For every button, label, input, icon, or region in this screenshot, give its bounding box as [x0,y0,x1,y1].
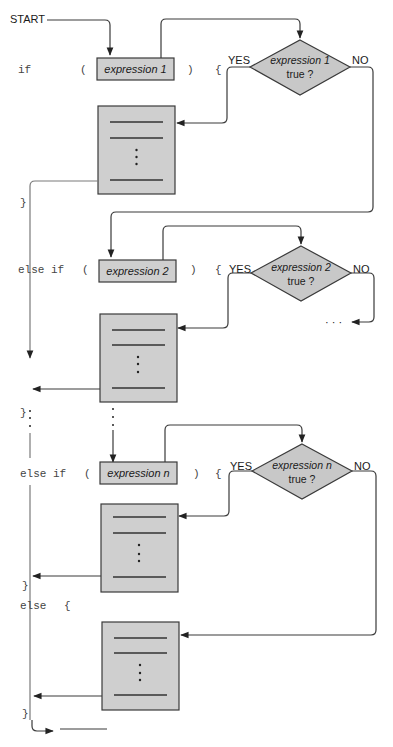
keyword-if: if [18,64,31,76]
branch-else: else { } [20,600,179,731]
keyword-else: else [20,600,46,612]
condition-2-diamond [251,246,351,301]
close-brace-1: } [20,197,27,209]
final-exit-arrow [32,720,53,731]
expr2-to-cond-arrow [163,226,301,260]
yes-label-n: YES [230,460,252,472]
open-brace-n: { [215,468,222,480]
close-paren-2: ) [190,264,197,276]
open-brace-2: { [215,264,222,276]
condition-n-line1: expression n [272,459,332,471]
open-brace-1: { [215,64,222,76]
branch-if: if ( expression 1 ) { expression 1 true … [18,19,373,257]
open-paren-1: ( [80,64,87,76]
no-arrow-n [181,471,376,635]
close-brace-n: } [22,580,29,592]
expression-n-label: expression n [107,467,169,479]
open-brace-else: { [64,600,71,612]
open-paren-2: ( [82,264,89,276]
no-label-n: NO [354,460,371,472]
open-paren-n: ( [84,468,91,480]
condition-n-diamond [252,444,352,499]
close-brace-else: } [22,708,29,720]
yes-arrow-2 [178,273,251,328]
keyword-else-if-n: else if [20,468,66,480]
close-paren-n: ) [193,468,200,480]
condition-2-line1: expression 2 [271,261,331,273]
expression-2-label: expression 2 [106,265,168,277]
if-else-if-flowchart: START if ( expression 1 ) { expression 1… [0,0,393,747]
expression-1-label: expression 1 [104,63,166,75]
yes-label-1: YES [228,54,250,66]
condition-1-line1: expression 1 [270,54,330,66]
continuation-ellipsis: · · · [325,316,342,328]
close-brace-2: } [20,407,27,419]
branch-else-if-n: else if ( expression n ) { expression n … [20,425,376,720]
start-label: START [10,13,45,25]
start-arrow [47,20,110,55]
keyword-else-if-2: else if [18,264,64,276]
condition-1-line2: true ? [287,68,314,80]
no-arrow-2 [351,273,374,322]
close-paren-1: ) [187,64,194,76]
condition-2-line2: true ? [288,275,315,287]
no-label-1: NO [352,54,369,66]
condition-n-line2: true ? [289,473,316,485]
branch-else-if-2: else if ( expression 2 ) { expression 2 … [18,226,374,402]
